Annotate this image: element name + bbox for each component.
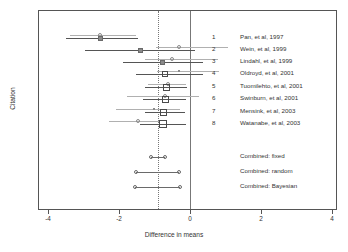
combined-label-2: Combined: random bbox=[240, 167, 293, 174]
legend-label-3: Lindahl, et al, 1999 bbox=[240, 57, 292, 64]
legend-label-1: Pan, et al, 1997 bbox=[240, 33, 283, 40]
x-tick-2 bbox=[190, 210, 191, 214]
legend-index-6: 6 bbox=[212, 94, 215, 101]
legend-index-4: 4 bbox=[212, 69, 215, 76]
legend-label-8: Watanabe, et al, 2003 bbox=[240, 119, 300, 126]
legend-label-6: Swinburn, et al, 2001 bbox=[240, 94, 298, 101]
x-tick-label-1: -2 bbox=[109, 215, 129, 222]
x-tick-label-3: 2 bbox=[251, 215, 271, 222]
legend-index-8: 8 bbox=[212, 119, 215, 126]
x-tick-1 bbox=[119, 210, 120, 214]
combined-label-1: Combined: fixed bbox=[240, 152, 285, 159]
legend-index-3: 3 bbox=[212, 57, 215, 64]
legend-index-5: 5 bbox=[212, 82, 215, 89]
legend-label-2: Wein, et al, 1999 bbox=[240, 45, 286, 52]
x-tick-3 bbox=[261, 210, 262, 214]
legend-label-4: Oldroyd, et al, 2001 bbox=[240, 69, 294, 76]
forest-plot-figure: 1Pan, et al, 19972Wein, et al, 19993Lind… bbox=[0, 0, 348, 252]
combined-label-3: Combined: Bayesian bbox=[240, 182, 297, 189]
x-tick-label-2: 0 bbox=[180, 215, 200, 222]
legend-label-5: Tuomilehto, et al, 2001 bbox=[240, 82, 303, 89]
x-tick-label-4: 4 bbox=[322, 215, 342, 222]
legend-index-1: 1 bbox=[212, 33, 215, 40]
legend-label-7: Mensink, et al, 2003 bbox=[240, 107, 295, 114]
legend-index-7: 7 bbox=[212, 107, 215, 114]
x-tick-label-0: -4 bbox=[38, 215, 58, 222]
legend-index-2: 2 bbox=[212, 45, 215, 52]
y-axis-label: Citation bbox=[9, 69, 16, 129]
x-axis-label: Difference in means bbox=[0, 231, 348, 238]
x-tick-4 bbox=[332, 210, 333, 214]
x-tick-0 bbox=[48, 210, 49, 214]
